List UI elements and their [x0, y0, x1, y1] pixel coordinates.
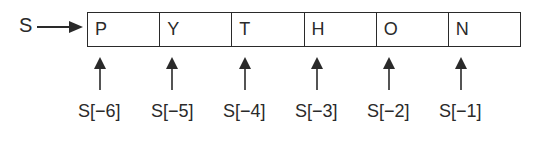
up-arrow-icon [383, 57, 395, 90]
index-label: S[−5] [151, 101, 194, 122]
string-cell: P [88, 13, 160, 46]
index-label: S[−4] [223, 101, 266, 122]
cell-char: N [456, 19, 469, 40]
string-cell: O [377, 13, 449, 46]
string-cell: T [232, 13, 304, 46]
right-arrow-icon [37, 19, 83, 35]
cell-char: H [312, 19, 325, 40]
cell-char: Y [167, 19, 179, 40]
cell-char: T [239, 19, 250, 40]
up-arrow-icon [166, 57, 178, 90]
index-label: S[−3] [295, 101, 338, 122]
cell-char: O [384, 19, 398, 40]
up-arrow-icon [455, 57, 467, 90]
up-arrow-icon [239, 57, 251, 90]
up-arrow-icon [311, 57, 323, 90]
string-cell: Y [160, 13, 232, 46]
index-label: S[−1] [439, 101, 482, 122]
string-cell: N [449, 13, 520, 46]
index-label: S[−2] [367, 101, 410, 122]
string-array-box: P Y T H O N [87, 12, 521, 47]
index-label: S[−6] [78, 101, 121, 122]
up-arrow-icon [94, 57, 106, 90]
string-cell: H [305, 13, 377, 46]
variable-label: S [19, 14, 32, 37]
cell-char: P [95, 19, 107, 40]
